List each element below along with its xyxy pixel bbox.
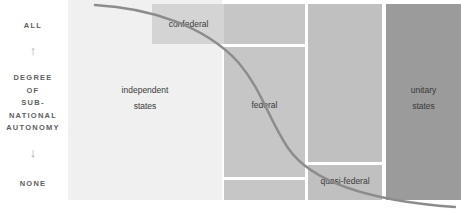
axis-label-none: NONE [0, 178, 66, 191]
label-independent-states: independent states [68, 82, 222, 114]
label-independent-states-line1: independent [122, 85, 169, 95]
axis-label-degree-of-subnational-autonomy: DEGREEOFSUB-NATIONALAUTONOMY [0, 72, 66, 135]
label-quasi-federal: quasi-federal [308, 173, 382, 189]
label-confederal: confederal [152, 16, 225, 32]
block-quasi-federal-top [308, 4, 382, 162]
label-unitary-states-line1: unitary [411, 85, 437, 95]
dashed-divider [383, 4, 385, 200]
plot-area: independent states confederal federal qu… [68, 0, 461, 219]
label-independent-states-line2: states [134, 101, 157, 111]
label-unitary-states: unitary states [386, 82, 461, 114]
axis-label-all: ALL [0, 20, 66, 33]
block-federal-bottom [224, 180, 305, 200]
block-federal-top [224, 4, 305, 44]
label-unitary-states-line2: states [412, 101, 435, 111]
y-axis: ALL ↑ DEGREEOFSUB-NATIONALAUTONOMY ↓ NON… [0, 0, 66, 219]
label-federal: federal [224, 97, 305, 113]
arrow-down-icon: ↓ [0, 146, 66, 159]
arrow-up-icon: ↑ [0, 44, 66, 57]
chart-canvas: ALL ↑ DEGREEOFSUB-NATIONALAUTONOMY ↓ NON… [0, 0, 461, 219]
